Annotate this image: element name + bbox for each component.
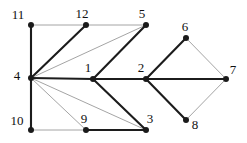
graph-edge-4-3 xyxy=(31,78,146,130)
graph-node-6 xyxy=(183,35,189,41)
graph-node-label-2: 2 xyxy=(138,61,145,74)
graph-node-4 xyxy=(28,75,34,81)
graph-node-2 xyxy=(143,76,149,82)
graph-node-10 xyxy=(28,127,34,133)
graph-canvas xyxy=(0,0,247,143)
graph-node-1 xyxy=(90,76,96,82)
graph-node-3 xyxy=(143,127,149,133)
graph-node-8 xyxy=(183,117,189,123)
graph-edge-8-7 xyxy=(186,79,226,120)
graph-diagram: 111256412783910 xyxy=(0,0,247,143)
graph-node-label-9: 9 xyxy=(81,112,88,125)
graph-node-label-12: 12 xyxy=(76,7,89,20)
graph-node-label-6: 6 xyxy=(182,20,189,33)
graph-node-11 xyxy=(28,22,34,28)
graph-node-label-10: 10 xyxy=(11,114,24,127)
graph-node-9 xyxy=(83,127,89,133)
graph-node-label-11: 11 xyxy=(12,8,25,21)
graph-node-label-1: 1 xyxy=(85,61,92,74)
graph-edge-1-3 xyxy=(93,79,146,130)
graph-node-12 xyxy=(83,22,89,28)
graph-edge-2-6 xyxy=(146,38,186,79)
graph-node-5 xyxy=(143,22,149,28)
graph-edge-4-1 xyxy=(31,78,93,79)
edge-layer xyxy=(31,25,226,130)
graph-node-label-8: 8 xyxy=(192,118,199,131)
graph-node-7 xyxy=(223,76,229,82)
graph-node-label-4: 4 xyxy=(14,69,21,82)
graph-node-label-3: 3 xyxy=(147,112,154,125)
graph-edge-6-7 xyxy=(186,38,226,79)
graph-edge-12-4 xyxy=(31,25,86,78)
graph-node-label-5: 5 xyxy=(139,7,146,20)
graph-node-label-7: 7 xyxy=(230,63,237,76)
graph-edge-4-9 xyxy=(31,78,86,130)
